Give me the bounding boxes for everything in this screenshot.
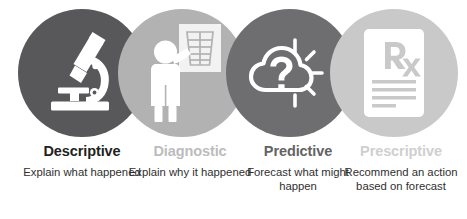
stage-label-prescriptive: Prescriptive Recommend an action based o… (336, 142, 466, 193)
analytics-maturity-infographic: Descriptive Explain what happened Diagno… (0, 0, 467, 219)
stage-description-prescriptive: Recommend an action based on forecast (336, 165, 466, 194)
stage-circle-prescriptive (330, 9, 458, 137)
rx-prescription-icon (330, 9, 458, 137)
stage-title-prescriptive: Prescriptive (336, 142, 466, 162)
stage-label-row: Descriptive Explain what happened Diagno… (0, 142, 467, 219)
stage-circle-row (0, 0, 467, 142)
